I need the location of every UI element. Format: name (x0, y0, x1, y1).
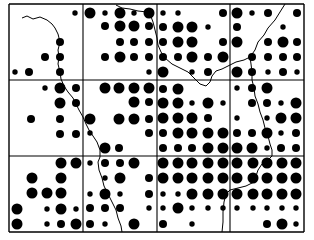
dot-medium (145, 53, 153, 61)
dot-large (173, 37, 184, 48)
dot-medium (279, 68, 287, 76)
dot-small (131, 10, 136, 15)
dot-medium (233, 129, 241, 137)
dot-large (129, 97, 140, 108)
dot-large (173, 22, 184, 33)
dot-large (276, 113, 287, 124)
dot-medium (101, 22, 109, 30)
dot-small (220, 100, 225, 105)
dot-small (189, 221, 194, 226)
dot-small (160, 205, 165, 210)
dot-large (248, 158, 259, 169)
dot-density-map (0, 0, 314, 240)
dot-large (218, 52, 229, 63)
dot-medium (159, 144, 167, 152)
dot-medium (41, 53, 49, 61)
dot-large (56, 204, 67, 215)
dot-medium (233, 23, 241, 31)
dot-small (175, 10, 180, 15)
dot-medium (101, 159, 109, 167)
dot-medium (159, 38, 167, 46)
dot-large (232, 143, 243, 154)
dot-large (55, 83, 66, 94)
dot-large (158, 158, 169, 169)
dot-medium (145, 22, 153, 30)
dot-large (232, 67, 243, 78)
dot-large (187, 113, 198, 124)
dot-large (129, 83, 140, 94)
dot-large (218, 158, 229, 169)
dot-large (232, 173, 243, 184)
dot-small (249, 10, 254, 15)
dot-medium (27, 115, 35, 123)
dot-large (187, 52, 198, 63)
dot-large (129, 158, 140, 169)
dot-medium (56, 53, 64, 61)
dot-medium (263, 99, 271, 107)
dot-small (265, 69, 270, 74)
dot-small (234, 115, 239, 120)
dot-medium (264, 53, 272, 61)
dot-small (44, 221, 49, 226)
dot-medium (248, 129, 256, 137)
dot-medium (279, 53, 287, 61)
dot-medium (116, 159, 124, 167)
dot-medium (159, 23, 167, 31)
dot-medium (248, 99, 256, 107)
dot-medium (293, 9, 301, 17)
dot-large (277, 219, 288, 230)
dot-large (262, 173, 273, 184)
dot-medium (174, 144, 182, 152)
dot-medium (277, 144, 285, 152)
dot-small (205, 205, 210, 210)
dot-small (293, 221, 298, 226)
dot-medium (145, 129, 153, 137)
dot-large (173, 84, 184, 95)
dot-small (72, 10, 77, 15)
dot-large (173, 158, 184, 169)
dot-medium (219, 38, 227, 46)
dot-large (56, 158, 67, 169)
dot-small (278, 100, 283, 105)
dot-small (73, 206, 78, 211)
dot-small (146, 205, 151, 210)
dot-large (203, 189, 214, 200)
dot-small (87, 160, 92, 165)
dot-medium (25, 68, 33, 76)
dot-large (262, 83, 273, 94)
dot-medium (57, 220, 65, 228)
dot-large (144, 83, 155, 94)
dot-medium (101, 204, 109, 212)
dot-small (293, 205, 298, 210)
dot-large (277, 158, 288, 169)
dot-large (187, 22, 198, 33)
dot-large (129, 114, 140, 125)
dot-small (264, 145, 269, 150)
dot-large (203, 98, 214, 109)
dot-large (248, 189, 259, 200)
dot-large (187, 128, 198, 139)
dot-large (158, 113, 169, 124)
dot-small (12, 69, 17, 74)
dot-small (279, 205, 284, 210)
dot-large (115, 52, 126, 63)
dot-large (56, 188, 67, 199)
dot-large (173, 203, 184, 214)
dot-small (117, 191, 122, 196)
dot-large (85, 114, 96, 125)
dot-medium (101, 53, 109, 61)
dot-large (158, 173, 169, 184)
dot-small (278, 130, 283, 135)
dot-large (232, 37, 243, 48)
dot-medium (264, 9, 272, 17)
dot-large (27, 173, 38, 184)
dot-medium (204, 114, 212, 122)
dot-large (277, 173, 288, 184)
dot-medium (204, 53, 212, 61)
dot-medium (145, 174, 153, 182)
dot-medium (145, 190, 153, 198)
dot-medium (145, 98, 153, 106)
dot-medium (86, 204, 94, 212)
dot-medium (292, 144, 300, 152)
dot-medium (145, 38, 153, 46)
